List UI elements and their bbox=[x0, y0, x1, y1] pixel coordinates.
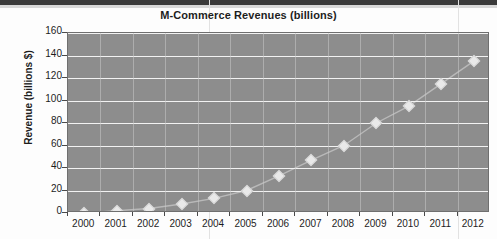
x-tick-mark-2002 bbox=[132, 212, 133, 216]
gridline-x-2002 bbox=[133, 33, 134, 211]
x-tick-mark-2008 bbox=[327, 212, 328, 216]
x-tick-mark-2011 bbox=[424, 212, 425, 216]
x-tick-label-2012: 2012 bbox=[450, 218, 496, 229]
plot-area bbox=[67, 32, 489, 212]
x-tick-mark-2001 bbox=[99, 212, 100, 216]
gridline-x-2011 bbox=[425, 33, 426, 211]
gridline-x-2001 bbox=[100, 33, 101, 211]
gridline-x-2003 bbox=[165, 33, 166, 211]
x-tick-mark-2000 bbox=[67, 212, 68, 216]
x-tick-mark-2004 bbox=[197, 212, 198, 216]
x-tick-mark-2012 bbox=[457, 212, 458, 216]
gridline-x-2006 bbox=[263, 33, 264, 211]
x-tick-mark-2007 bbox=[294, 212, 295, 216]
x-tick-mark-2010 bbox=[392, 212, 393, 216]
gridline-x-2007 bbox=[295, 33, 296, 211]
chart-container: M-Commerce Revenues (billions) Revenue (… bbox=[0, 0, 497, 239]
x-tick-mark-2009 bbox=[359, 212, 360, 216]
x-tick-mark-2006 bbox=[262, 212, 263, 216]
gridline-x-2010 bbox=[393, 33, 394, 211]
x-tick-mark-2005 bbox=[229, 212, 230, 216]
gridline-x-2009 bbox=[360, 33, 361, 211]
x-tick-mark-2003 bbox=[164, 212, 165, 216]
gridline-x-2004 bbox=[198, 33, 199, 211]
gridline-x-2012 bbox=[458, 33, 459, 211]
gridline-x-2008 bbox=[328, 33, 329, 211]
gridline-x-2005 bbox=[230, 33, 231, 211]
